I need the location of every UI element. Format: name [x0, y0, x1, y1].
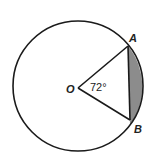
label-o: O	[66, 83, 75, 95]
label-b: B	[134, 123, 142, 135]
label-a: A	[128, 32, 137, 44]
circle	[13, 21, 143, 151]
label-angle: 72°	[90, 81, 107, 93]
circle-diagram: O 72° A B	[0, 0, 153, 160]
